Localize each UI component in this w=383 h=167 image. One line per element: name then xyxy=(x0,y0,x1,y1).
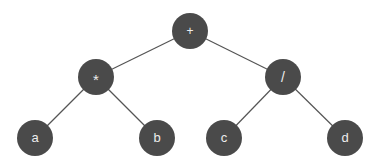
tree-node-leaf-d[interactable]: d xyxy=(327,120,363,156)
expression-tree-canvas: +*/abcd xyxy=(0,0,383,167)
tree-node-mul[interactable]: * xyxy=(78,59,114,95)
node-label: c xyxy=(221,130,228,145)
node-label: / xyxy=(281,69,285,85)
tree-node-div[interactable]: / xyxy=(265,59,301,95)
tree-node-leaf-a[interactable]: a xyxy=(17,120,53,156)
tree-node-leaf-b[interactable]: b xyxy=(139,120,175,156)
node-label: d xyxy=(341,130,348,145)
node-label: a xyxy=(31,130,39,145)
tree-node-leaf-c[interactable]: c xyxy=(206,120,242,156)
node-label: * xyxy=(93,71,99,88)
tree-node-root[interactable]: + xyxy=(172,13,208,49)
node-label: b xyxy=(153,130,160,145)
tree-nodes-group: +*/abcd xyxy=(17,13,363,156)
node-label: + xyxy=(186,24,193,38)
expression-tree-figure: +*/abcd xyxy=(0,0,383,167)
